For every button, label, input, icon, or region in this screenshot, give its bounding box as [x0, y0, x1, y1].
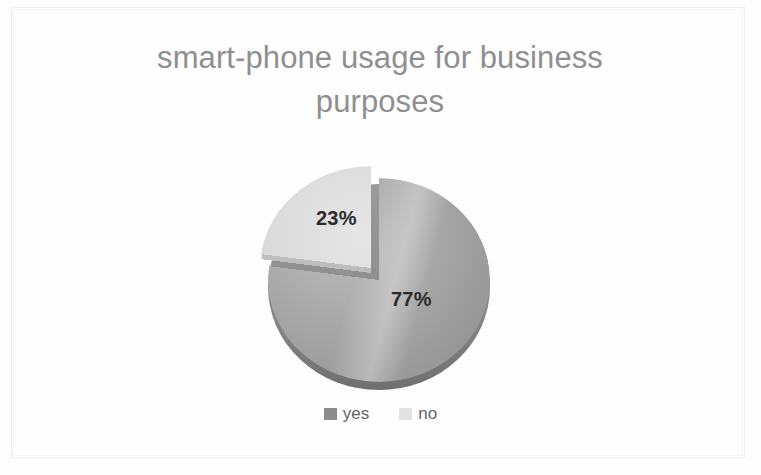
chart-title: smart-phone usage for business purposes — [90, 36, 670, 124]
pie-slice-no-exploded[interactable] — [260, 166, 482, 370]
legend-label-no: no — [418, 404, 437, 424]
chart-legend: yes no — [0, 404, 761, 424]
legend-label-yes: yes — [343, 404, 369, 424]
legend-item-yes[interactable]: yes — [324, 404, 369, 424]
pie-label-yes: 77% — [391, 288, 432, 311]
legend-item-no[interactable]: no — [399, 404, 437, 424]
legend-swatch-yes-icon — [324, 408, 337, 420]
chart-page: smart-phone usage for business purposes … — [0, 0, 761, 475]
legend-swatch-no-icon — [399, 408, 412, 420]
pie-label-no: 23% — [316, 207, 357, 230]
pie-chart: 23% 77% — [255, 160, 505, 395]
